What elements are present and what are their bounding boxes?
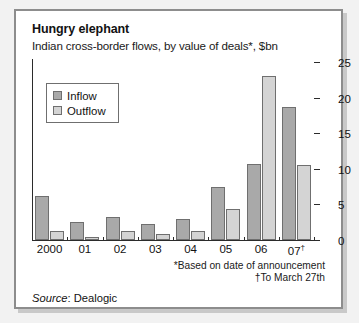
x-axis-label-03: 03 (149, 243, 162, 255)
bar-inflow-07 (282, 107, 296, 240)
y-axis-tick-label: 15 (338, 128, 351, 140)
footnote-asterisk: *Based on date of announcement (174, 260, 325, 272)
bar-inflow-05 (211, 187, 225, 240)
y-axis-tick (314, 98, 320, 99)
x-axis-label-04: 04 (184, 243, 197, 255)
legend-item-outflow: Outflow (53, 103, 106, 118)
y-axis-tick (314, 133, 320, 134)
chart-footnotes: *Based on date of announcement †To March… (174, 260, 325, 284)
bar-outflow-04 (191, 231, 205, 240)
page-title: Hungry elephant (32, 22, 129, 36)
y-axis-tick (314, 169, 320, 170)
x-axis-tick (314, 237, 315, 241)
bar-group (247, 62, 276, 240)
x-axis-tick (103, 237, 104, 241)
legend-label-outflow: Outflow (67, 105, 106, 117)
bar-outflow-02 (121, 231, 135, 240)
y-axis-tick-label: 10 (338, 164, 351, 176)
bar-inflow-2000 (35, 196, 49, 240)
legend-label-inflow: Inflow (67, 90, 97, 102)
x-axis-label-2000: 2000 (37, 243, 63, 255)
legend-swatch-inflow-icon (53, 91, 62, 100)
legend-item-inflow: Inflow (53, 88, 106, 103)
bar-outflow-05 (226, 209, 240, 240)
y-axis-tick-label: 20 (338, 93, 351, 105)
x-axis-label-05: 05 (219, 243, 232, 255)
y-axis-line (32, 59, 33, 237)
chart-legend: Inflow Outflow (46, 83, 119, 123)
source-value: Dealogic (74, 292, 118, 304)
bar-inflow-03 (141, 224, 155, 240)
x-axis-tick (32, 237, 33, 241)
bar-outflow-06 (262, 76, 276, 240)
legend-swatch-outflow-icon (53, 106, 62, 115)
x-axis-tick (173, 237, 174, 241)
bar-inflow-02 (106, 217, 120, 240)
x-axis-label-02: 02 (114, 243, 127, 255)
y-axis-tick-label: 5 (338, 199, 344, 211)
x-axis-label-01: 01 (78, 243, 91, 255)
x-axis-tick (208, 237, 209, 241)
chart-figure: Hungry elephant Indian cross-border flow… (0, 0, 359, 323)
bar-outflow-2000 (50, 231, 64, 240)
x-axis-tick (138, 237, 139, 241)
source-label: Source (32, 292, 67, 304)
bar-outflow-03 (156, 234, 170, 240)
bar-inflow-01 (70, 222, 84, 241)
bar-inflow-06 (247, 164, 261, 240)
footnote-dagger: †To March 27th (174, 272, 325, 284)
bar-group (141, 62, 170, 240)
y-axis-tick-label: 25 (338, 57, 351, 69)
chart-subtitle: Indian cross-border flows, by value of d… (32, 39, 278, 52)
x-axis-label-07: 07† (288, 243, 305, 257)
bar-group (282, 62, 311, 240)
y-axis-tick-label: 0 (338, 235, 344, 247)
bar-outflow-07 (297, 165, 311, 240)
y-axis-tick (314, 62, 320, 63)
chart-panel: Hungry elephant Indian cross-border flow… (14, 9, 343, 309)
x-axis-tick (67, 237, 68, 241)
bar-inflow-04 (176, 219, 190, 240)
x-axis-tick (279, 237, 280, 241)
bar-group (211, 62, 240, 240)
chart-source: Source: Dealogic (32, 292, 117, 304)
bar-group (176, 62, 205, 240)
y-axis-tick (314, 204, 320, 205)
x-axis-tick (244, 237, 245, 241)
bar-outflow-01 (85, 237, 99, 240)
x-axis-label-06: 06 (255, 243, 268, 255)
